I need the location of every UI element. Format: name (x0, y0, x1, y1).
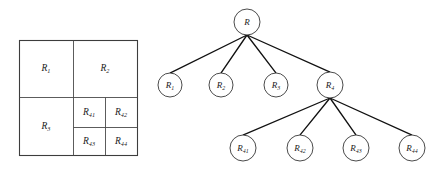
region-partition-diagram: R1R2R3R41R42R43R44 (20, 41, 138, 156)
tree-node-r3[interactable]: R3 (264, 73, 288, 97)
tree-node-r44[interactable]: R44 (399, 135, 425, 161)
figure-canvas: R1R2R3R41R42R43R44RR1R2R3R4R41R42R43R44 (0, 0, 446, 173)
tree-node-r4[interactable]: R4 (317, 72, 343, 98)
tree-edge-r-r4 (247, 35, 330, 72)
tree-edges (170, 35, 411, 135)
tree-edge-r-r1 (170, 35, 247, 73)
tree-edge-r-r3 (247, 35, 276, 73)
figure-svg: R1R2R3R41R42R43R44RR1R2R3R4R41R42R43R44 (0, 0, 446, 173)
tree-node-r43[interactable]: R43 (343, 135, 369, 161)
tree-node-r2[interactable]: R2 (209, 73, 233, 97)
tree-nodes: RR1R2R3R4R41R42R43R44 (158, 9, 425, 161)
tree-edge-r4-r41 (243, 98, 330, 135)
tree-node-r[interactable]: R (234, 9, 260, 35)
tree-node-r41[interactable]: R41 (230, 135, 256, 161)
tree-edge-r4-r42 (300, 98, 330, 135)
tree-node-r1[interactable]: R1 (158, 73, 182, 97)
tree-node-r42[interactable]: R42 (287, 135, 313, 161)
tree-node-label-r: R (243, 17, 250, 27)
